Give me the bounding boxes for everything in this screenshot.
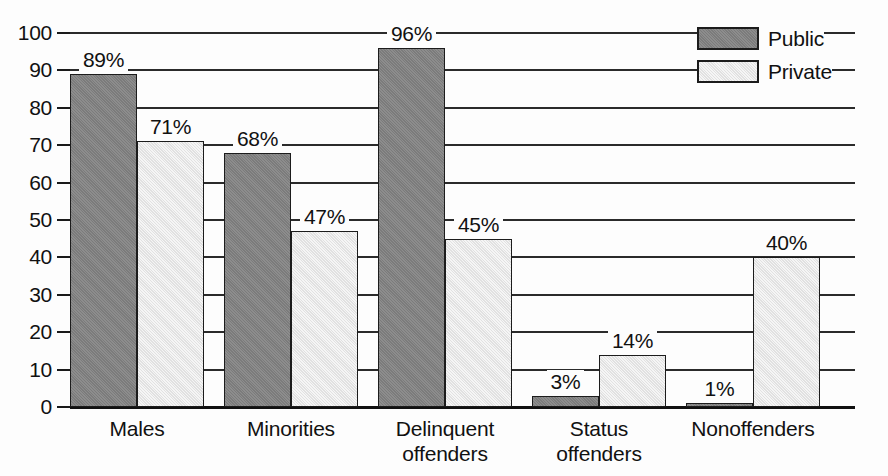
y-axis-tick-mark bbox=[57, 256, 70, 258]
bar-value-label: 45% bbox=[437, 214, 520, 235]
y-axis-tick-label: 80 bbox=[6, 97, 52, 118]
bar bbox=[686, 403, 753, 407]
x-axis-category-label: Minorities bbox=[202, 416, 380, 441]
y-axis-tick-mark bbox=[57, 32, 70, 34]
bar bbox=[137, 141, 204, 407]
y-axis-tick-labels: 1009080706050403020100 bbox=[6, 0, 52, 476]
x-axis-category-label: Males bbox=[48, 416, 226, 441]
bar bbox=[291, 231, 358, 407]
legend-item: Private bbox=[697, 55, 862, 88]
y-axis-tick-label: 90 bbox=[6, 59, 52, 80]
bar bbox=[445, 239, 512, 407]
y-axis-tick-mark bbox=[57, 144, 70, 146]
bar-value-label: 47% bbox=[283, 206, 366, 227]
y-axis-tick-label: 0 bbox=[6, 396, 52, 417]
x-axis-category-label: Nonoffenders bbox=[664, 416, 842, 441]
x-axis-category-label: Status offenders bbox=[510, 416, 688, 466]
bar-value-label: 14% bbox=[591, 330, 674, 351]
y-axis-tick-label: 20 bbox=[6, 321, 52, 342]
bar-value-label: 71% bbox=[129, 116, 212, 137]
x-axis-category-label: Delinquent offenders bbox=[356, 416, 534, 466]
bar-value-label: 68% bbox=[216, 128, 299, 149]
gridline bbox=[70, 107, 855, 109]
bar-value-label: 1% bbox=[678, 378, 761, 399]
y-axis-tick-label: 10 bbox=[6, 359, 52, 380]
legend-item: Public bbox=[697, 22, 862, 55]
bar bbox=[599, 355, 666, 407]
y-axis-tick-mark bbox=[57, 219, 70, 221]
y-axis-tick-mark bbox=[57, 331, 70, 333]
bar-value-label: 89% bbox=[62, 49, 145, 70]
y-axis-tick-mark bbox=[57, 406, 70, 408]
bar bbox=[378, 48, 445, 407]
bar-value-label: 40% bbox=[745, 232, 828, 253]
bar-value-label: 3% bbox=[524, 371, 607, 392]
y-axis-tick-label: 40 bbox=[6, 246, 52, 267]
bar-chart: 1009080706050403020100 89%71%68%47%96%45… bbox=[0, 0, 888, 476]
y-axis-tick-mark bbox=[57, 369, 70, 371]
y-axis-tick-mark bbox=[57, 107, 70, 109]
y-axis-tick-mark bbox=[57, 182, 70, 184]
bar bbox=[753, 257, 820, 407]
bar bbox=[224, 153, 291, 407]
y-axis-tick-label: 70 bbox=[6, 134, 52, 155]
y-axis-tick-label: 100 bbox=[6, 22, 52, 43]
y-axis-tick-label: 30 bbox=[6, 284, 52, 305]
bar bbox=[532, 396, 599, 407]
legend-swatch-private bbox=[697, 60, 759, 83]
y-axis-tick-label: 60 bbox=[6, 172, 52, 193]
bar-value-label: 96% bbox=[370, 23, 453, 44]
legend-label: Public bbox=[759, 28, 824, 49]
y-axis-tick-label: 50 bbox=[6, 209, 52, 230]
bar bbox=[70, 74, 137, 407]
y-axis-tick-mark bbox=[57, 294, 70, 296]
chart-legend: PublicPrivate bbox=[697, 22, 862, 88]
legend-swatch-public bbox=[697, 27, 759, 50]
legend-label: Private bbox=[759, 61, 832, 82]
